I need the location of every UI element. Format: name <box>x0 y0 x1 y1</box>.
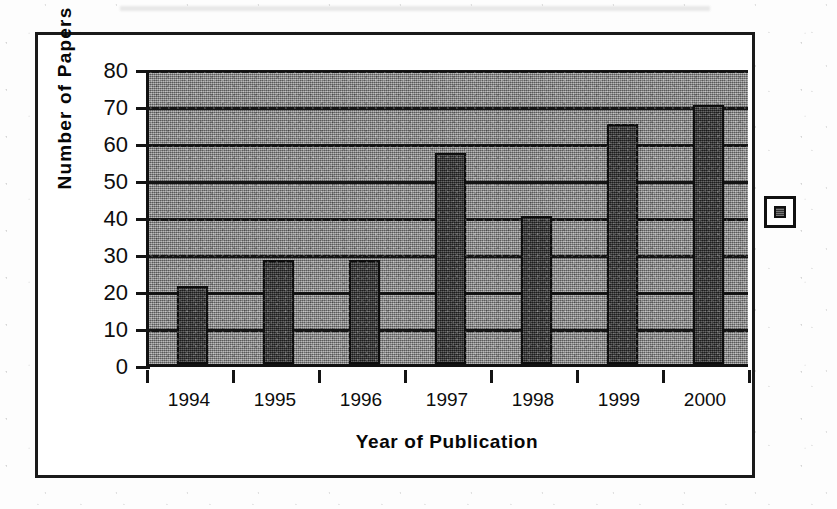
bar <box>607 124 638 365</box>
y-axis-title: Number of Papers <box>54 0 76 213</box>
bar <box>177 286 208 364</box>
x-axis-tick <box>232 370 235 383</box>
x-axis-tick <box>318 370 321 383</box>
gridline <box>149 107 748 110</box>
x-axis-tick-label: 1995 <box>232 389 318 411</box>
y-axis-tick <box>136 70 150 73</box>
y-axis-tick-label: 80 <box>88 60 128 82</box>
y-axis-tick <box>136 255 150 258</box>
x-axis-tick-label: 2000 <box>662 389 748 411</box>
y-axis-tick-label: 70 <box>88 97 128 119</box>
figure-frame: Number of Papers 01020304050607080 19941… <box>35 32 755 478</box>
y-axis-tick-label: 10 <box>88 319 128 341</box>
x-axis-tick <box>146 370 149 383</box>
y-axis-tick <box>136 329 150 332</box>
x-axis-tick-label: 1994 <box>146 389 232 411</box>
y-axis-tick-label: 40 <box>88 208 128 230</box>
bar <box>521 216 552 364</box>
x-axis-tick-label: 1999 <box>576 389 662 411</box>
y-axis-tick-label: 60 <box>88 134 128 156</box>
y-axis-tick <box>136 181 150 184</box>
plot-area <box>146 71 748 367</box>
x-axis-tick <box>404 370 407 383</box>
gridline <box>149 70 748 73</box>
x-axis-tick-label: 1998 <box>490 389 576 411</box>
y-axis-tick-label: 20 <box>88 282 128 304</box>
x-axis-tick-label: 1996 <box>318 389 404 411</box>
page-artifact-top <box>120 6 710 11</box>
y-axis-tick-label: 30 <box>88 245 128 267</box>
y-axis-tick <box>136 107 150 110</box>
series-marker-box <box>764 196 796 228</box>
x-axis-tick <box>490 370 493 383</box>
gridline <box>149 144 748 147</box>
x-axis-tick <box>662 370 665 383</box>
bar <box>693 105 724 364</box>
x-axis-tick-label: 1997 <box>404 389 490 411</box>
y-axis-tick-label: 0 <box>88 356 128 378</box>
y-axis-tick <box>136 292 150 295</box>
y-axis-tick <box>136 144 150 147</box>
y-axis-tick-label: 50 <box>88 171 128 193</box>
scanned-page: Number of Papers 01020304050607080 19941… <box>0 0 837 509</box>
bar <box>349 260 380 364</box>
x-axis-tick <box>748 370 751 383</box>
x-axis-title: Year of Publication <box>146 431 748 453</box>
y-axis-tick <box>136 218 150 221</box>
series-marker-swatch <box>774 206 786 218</box>
bar <box>263 260 294 364</box>
bar <box>435 153 466 364</box>
x-axis-tick <box>576 370 579 383</box>
y-axis-tick <box>136 366 150 369</box>
